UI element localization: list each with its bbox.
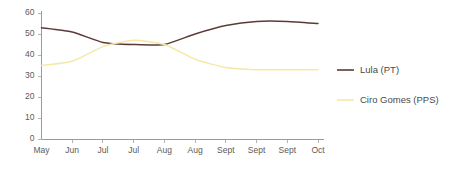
y-axis-tick-label: 40 — [25, 49, 35, 59]
y-axis-tick-label: 20 — [25, 91, 35, 101]
x-axis-tick-label: Jun — [65, 145, 79, 155]
y-axis-tick-label: 10 — [25, 112, 35, 122]
x-axis-tick-label: Sept — [217, 145, 235, 155]
x-axis-tick-group — [72, 139, 318, 143]
y-axis-tick-label: 0 — [30, 133, 35, 143]
y-axis-tick-label: 50 — [25, 28, 35, 38]
x-axis-tick-label: May — [33, 145, 50, 155]
x-axis-tick-label: Oct — [311, 145, 325, 155]
x-axis-tick-label: Sept — [248, 145, 266, 155]
series-line-0 — [42, 21, 319, 45]
series-group — [42, 21, 319, 70]
line-chart: MayJunJulJulAugAugSeptSeptSeptOct 010203… — [0, 0, 465, 171]
chart-legend: Lula (PT)Ciro Gomes (PPS) — [337, 64, 439, 105]
y-axis-tick-label: 60 — [25, 7, 35, 17]
x-axis-tick-label: Sept — [279, 145, 297, 155]
y-axis-tick-label: 30 — [25, 70, 35, 80]
legend-label-1: Ciro Gomes (PPS) — [360, 94, 439, 105]
chart-canvas: MayJunJulJulAugAugSeptSeptSeptOct 010203… — [0, 0, 465, 171]
y-axis-label-group: 0102030405060 — [25, 7, 35, 143]
x-axis-tick-label: Jul — [98, 145, 109, 155]
x-axis-label-group: MayJunJulJulAugAugSeptSeptSeptOct — [33, 145, 325, 155]
x-axis-tick-label: Jul — [128, 145, 139, 155]
x-axis-tick-label: Aug — [157, 145, 172, 155]
legend-label-0: Lula (PT) — [360, 64, 399, 75]
x-axis-tick-label: Aug — [188, 145, 203, 155]
y-axis-tick-group — [38, 13, 42, 139]
series-line-1 — [42, 40, 319, 69]
